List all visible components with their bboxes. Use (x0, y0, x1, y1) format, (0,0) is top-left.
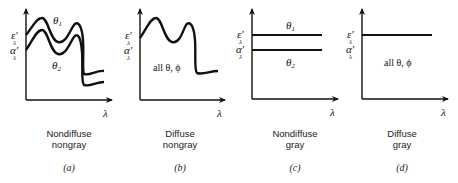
caption-line1: Diffuse (135, 128, 225, 139)
caption-line1: Nondiffuse (24, 128, 114, 139)
theta1-label: θ1 (286, 19, 295, 33)
wavelength-label: λ (440, 106, 446, 118)
theta2-label: θ2 (286, 56, 295, 70)
panel-c-graph: θ1 θ2 ε′λ α′λ λ (236, 9, 338, 118)
panel-label-b: (b) (160, 162, 200, 173)
panel-b-graph: ε′λ α′λ all θ, ϕ λ (124, 9, 225, 119)
absorptivity-label: α′λ (10, 44, 19, 62)
caption-line2: gray (357, 139, 447, 150)
wavelength-label: λ (216, 107, 222, 119)
curve-theta1 (26, 18, 104, 74)
caption-line2: gray (250, 139, 340, 150)
diagram-canvas: θ1 θ2 ε′λ α′λ λ ε′λ α′λ all θ, ϕ λ θ1 θ2… (0, 0, 458, 183)
panel-d-graph: ε′λ α′λ all θ, ϕ λ (346, 9, 448, 118)
wavelength-label: λ (329, 106, 335, 118)
caption-d: Diffuse gray (357, 128, 447, 150)
theta1-label: θ1 (53, 14, 62, 28)
caption-line2: nongray (24, 139, 114, 150)
all-angles-note: all θ, ϕ (153, 62, 181, 73)
all-angles-note: all θ, ϕ (384, 57, 412, 68)
absorptivity-label: α′λ (236, 43, 245, 61)
absorptivity-label: α′λ (346, 43, 355, 61)
caption-line2: nongray (135, 139, 225, 150)
caption-c: Nondiffuse gray (250, 128, 340, 150)
panel-label-c: (c) (275, 162, 315, 173)
panel-label-a: (a) (49, 162, 89, 173)
panel-a-graph: θ1 θ2 ε′λ α′λ λ (10, 9, 112, 119)
absorptivity-label: α′λ (124, 44, 133, 62)
panel-label-d: (d) (382, 162, 422, 173)
wavelength-label: λ (102, 107, 108, 119)
theta2-label: θ2 (52, 59, 61, 73)
caption-b: Diffuse nongray (135, 128, 225, 150)
caption-line1: Diffuse (357, 128, 447, 139)
caption-line1: Nondiffuse (250, 128, 340, 139)
caption-a: Nondiffuse nongray (24, 128, 114, 150)
